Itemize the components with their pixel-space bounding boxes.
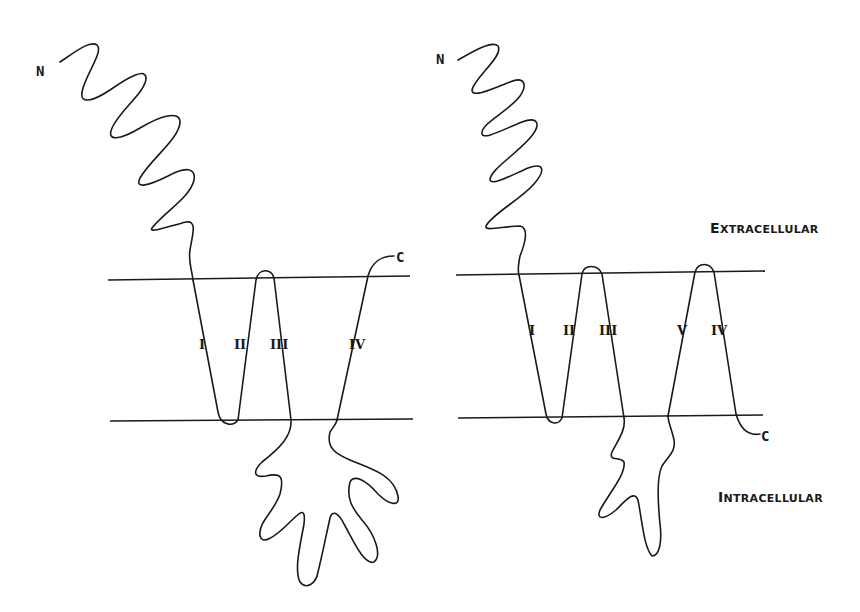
left-segment-ii-label: II: [234, 337, 246, 352]
right-segment-v-label: V: [676, 323, 688, 338]
right-n-terminus-label: N: [436, 51, 444, 67]
left-intracellular-loop: [256, 420, 399, 586]
right-intracellular-loop: [599, 416, 674, 556]
right-c-terminus-label: C: [761, 428, 769, 444]
left-segment-iii-label: III: [270, 337, 288, 352]
left-segment-i-label: I: [199, 337, 205, 352]
right-transmembrane-i-ii-iii: [519, 267, 624, 423]
left-n-terminus-label: N: [36, 63, 44, 79]
extracellular-label-rest: XTRACELLULAR: [720, 223, 819, 236]
left-transmembrane-iv: [337, 256, 394, 420]
extracellular-label-initial: E: [710, 220, 720, 236]
intracellular-label-rest: NTRACELLULAR: [724, 492, 824, 505]
left-segment-iv-label: IV: [349, 337, 366, 352]
right-n-terminal-chain: [458, 44, 542, 275]
left-model: N C I II III IV: [36, 44, 413, 586]
right-segment-iv-label: IV: [711, 323, 728, 338]
intracellular-label: INTRACELLULAR: [718, 489, 823, 505]
left-membrane-outer-line: [108, 276, 410, 280]
right-model: N C I II III V IV: [436, 44, 769, 556]
right-segment-iii-label: III: [599, 323, 617, 338]
right-membrane-inner-line: [458, 415, 763, 418]
left-c-terminus-label: C: [396, 249, 404, 265]
right-transmembrane-v-iv: [668, 265, 760, 435]
right-segment-i-label: I: [529, 323, 535, 338]
left-membrane-inner-line: [110, 419, 413, 421]
left-n-terminal-chain: [60, 44, 194, 280]
topology-diagram: N C I II III IV N C I II III V IV EXTRAC…: [0, 0, 860, 612]
extracellular-label: EXTRACELLULAR: [710, 220, 819, 236]
right-segment-ii-label: II: [563, 323, 575, 338]
right-membrane-outer-line: [456, 271, 765, 275]
